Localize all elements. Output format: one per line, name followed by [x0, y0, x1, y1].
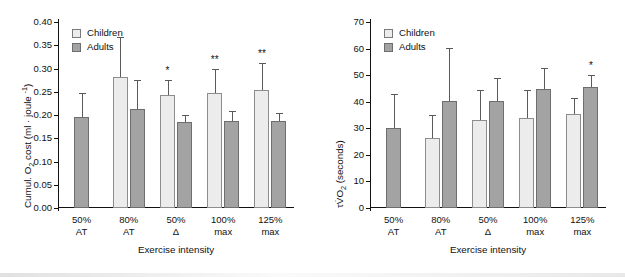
- y-axis-line: [58, 19, 59, 211]
- x-axis-tick-label-line: max: [570, 226, 594, 238]
- y-axis-tick-label: 30: [353, 124, 364, 134]
- error-bar-cap: [165, 80, 172, 81]
- bar-adults: [489, 101, 504, 208]
- scan-artifact-strip: [0, 273, 625, 277]
- legend-swatch-adults-icon: [72, 43, 81, 52]
- error-bar: [432, 115, 433, 138]
- y-axis-tick-label: 0.20: [34, 110, 53, 120]
- y-axis-tick: [366, 49, 370, 50]
- error-bar-cap: [79, 93, 86, 94]
- legend-item-adults: Adults: [384, 40, 435, 54]
- bar-children: [207, 93, 222, 208]
- bar-adults: [583, 87, 598, 208]
- error-bar: [480, 90, 481, 120]
- y-axis-tick: [54, 185, 58, 186]
- legend-swatch-children-icon: [384, 29, 393, 38]
- error-bar: [574, 98, 575, 114]
- x-axis-tick-label: 50%Δ: [166, 214, 185, 237]
- error-bar-cap: [229, 111, 236, 112]
- x-axis-tick-label-line: Δ: [478, 226, 497, 238]
- y-axis-tick-label: 0.05: [34, 180, 53, 190]
- y-axis-tick-label: 40: [353, 97, 364, 107]
- y-axis-tick-label: 0.10: [34, 157, 53, 167]
- bar-adults: [271, 121, 286, 208]
- y-axis-tick-label: 20: [353, 150, 364, 160]
- y-axis-tick-label: 70: [353, 17, 364, 27]
- panel-right-tau-vo2: τV̇O2 (seconds) 010203040506070* Childre…: [312, 0, 624, 277]
- x-axis-tick-label-line: 50%: [166, 214, 185, 226]
- x-axis-tick-label-line: 100%: [211, 214, 235, 226]
- bar-adults: [386, 128, 401, 208]
- y-axis-tick: [54, 115, 58, 116]
- y-axis-title-right: τV̇O2 (seconds): [334, 140, 348, 208]
- x-axis-title-left: Exercise intensity: [58, 244, 294, 255]
- x-axis-tick-label: 80%AT: [119, 214, 138, 237]
- x-axis-tick-label: 50%AT: [384, 214, 403, 237]
- x-axis-tick-label-line: 50%: [384, 214, 403, 226]
- error-bar-cap: [429, 115, 436, 116]
- y-axis-tick: [366, 155, 370, 156]
- error-bar: [449, 48, 450, 101]
- error-bar-cap: [134, 80, 141, 81]
- y-axis-tick-label: 60: [353, 44, 364, 54]
- error-bar-cap: [524, 90, 531, 91]
- x-axis-tick-label-line: 125%: [258, 214, 282, 226]
- error-bar: [82, 93, 83, 118]
- y-axis-tick: [54, 69, 58, 70]
- x-axis-tick-label: 125%max: [570, 214, 594, 237]
- legend-swatch-adults-icon: [384, 43, 393, 52]
- y-axis-tick-label: 10: [353, 177, 364, 187]
- panel-left-cumulative-o2-cost: Cumul. O2 cost (ml · joule -1) 0.000.050…: [0, 0, 312, 277]
- figure-two-panel-bar-charts: Cumul. O2 cost (ml · joule -1) 0.000.050…: [0, 0, 625, 277]
- x-axis-tick-label-line: Δ: [166, 226, 185, 238]
- bar-adults: [442, 101, 457, 208]
- error-bar: [232, 111, 233, 121]
- y-axis-tick: [54, 162, 58, 163]
- y-axis-tick-label: 0.40: [34, 17, 53, 27]
- error-bar: [215, 69, 216, 93]
- legend-label-adults: Adults: [399, 42, 426, 52]
- error-bar: [262, 63, 263, 90]
- legend-label-children: Children: [399, 28, 435, 38]
- error-bar: [185, 115, 186, 122]
- error-bar-cap: [446, 48, 453, 49]
- legend-label-adults: Adults: [87, 42, 114, 52]
- y-axis-tick: [366, 128, 370, 129]
- significance-marker: **: [258, 49, 266, 59]
- bar-children: [566, 114, 581, 208]
- bar-adults: [177, 122, 192, 208]
- error-bar: [137, 80, 138, 110]
- x-axis-title-right: Exercise intensity: [370, 244, 606, 255]
- error-bar-cap: [182, 115, 189, 116]
- y-axis-tick-label: 0.15: [34, 134, 53, 144]
- y-axis-line: [370, 19, 371, 211]
- x-axis-tick-label: 50%Δ: [478, 214, 497, 237]
- y-axis-tick-label: 0.00: [34, 203, 53, 213]
- x-axis-tick-label-line: max: [211, 226, 235, 238]
- significance-marker: *: [589, 61, 593, 71]
- x-axis-tick-label-line: 80%: [431, 214, 450, 226]
- legend-swatch-children-icon: [72, 29, 81, 38]
- legend-label-children: Children: [87, 28, 123, 38]
- y-axis-tick: [366, 181, 370, 182]
- y-axis-tick-label: 50: [353, 70, 364, 80]
- x-axis-tick-label-line: 100%: [523, 214, 547, 226]
- bar-children: [425, 138, 440, 208]
- x-axis-tick-label: 50%AT: [72, 214, 91, 237]
- bar-adults: [536, 89, 551, 208]
- error-bar-cap: [494, 78, 501, 79]
- y-axis-tick: [366, 102, 370, 103]
- error-bar-cap: [212, 69, 219, 70]
- bar-children: [472, 120, 487, 208]
- y-axis-tick: [54, 92, 58, 93]
- legend-item-children: Children: [72, 26, 123, 40]
- error-bar: [527, 90, 528, 118]
- y-axis-tick-label: 0: [359, 203, 364, 213]
- error-bar-cap: [259, 63, 266, 64]
- error-bar: [591, 75, 592, 86]
- x-axis-tick-label: 125%max: [258, 214, 282, 237]
- y-axis-tick: [366, 75, 370, 76]
- error-bar-cap: [477, 90, 484, 91]
- y-axis-tick: [366, 22, 370, 23]
- y-axis-tick: [54, 45, 58, 46]
